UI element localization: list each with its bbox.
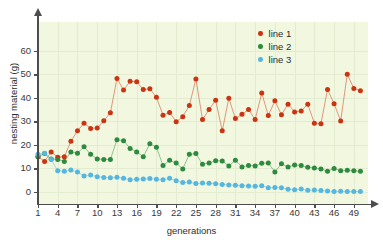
data-point <box>141 87 146 92</box>
series-1 <box>36 72 363 164</box>
y-tick-label: 0 <box>5 187 31 197</box>
data-point <box>128 146 133 151</box>
x-tick-label: 49 <box>343 207 365 218</box>
legend-marker-icon <box>258 57 263 62</box>
data-point <box>351 86 356 91</box>
data-point <box>82 173 87 178</box>
data-point <box>286 187 291 192</box>
data-point <box>213 158 218 163</box>
data-point <box>358 169 363 174</box>
data-point <box>128 177 133 182</box>
x-tick-label: 16 <box>126 207 148 218</box>
x-tick-mark <box>295 205 296 208</box>
data-point <box>114 76 119 81</box>
data-point <box>200 117 205 122</box>
data-point <box>187 103 192 108</box>
data-point <box>134 149 139 154</box>
data-point <box>68 168 73 173</box>
data-point <box>239 165 244 170</box>
data-point <box>154 177 159 182</box>
legend-item-2[interactable]: line 2 <box>258 40 291 53</box>
data-point <box>253 184 258 189</box>
data-point <box>266 161 271 166</box>
legend-item-1[interactable]: line 1 <box>258 27 291 40</box>
series-2 <box>36 137 363 174</box>
data-point <box>325 169 330 174</box>
data-point <box>345 72 350 77</box>
data-point <box>121 88 126 93</box>
data-point <box>312 121 317 126</box>
data-point <box>220 128 225 133</box>
x-tick-label: 1 <box>27 207 49 218</box>
data-point <box>226 182 231 187</box>
data-point <box>141 177 146 182</box>
y-tick-mark <box>34 51 38 52</box>
x-tick-label: 46 <box>323 207 345 218</box>
x-tick-mark <box>97 205 98 208</box>
data-point <box>108 157 113 162</box>
data-point <box>299 163 304 168</box>
data-point <box>325 87 330 92</box>
legend-label: line 2 <box>269 41 292 52</box>
x-tick-label: 22 <box>165 207 187 218</box>
data-point <box>49 157 54 162</box>
legend-item-3[interactable]: line 3 <box>258 53 291 66</box>
data-point <box>55 157 60 162</box>
data-point <box>101 157 106 162</box>
data-point <box>82 121 87 126</box>
x-tick-label: 28 <box>205 207 227 218</box>
data-point <box>332 101 337 106</box>
data-point <box>101 175 106 180</box>
data-point <box>207 181 212 186</box>
data-point <box>180 114 185 119</box>
data-point <box>266 185 271 190</box>
data-point <box>147 176 152 181</box>
data-point <box>82 144 87 149</box>
data-point <box>213 181 218 186</box>
data-point <box>345 189 350 194</box>
x-tick-mark <box>235 205 236 208</box>
data-point <box>220 182 225 187</box>
data-point <box>292 109 297 114</box>
data-point <box>42 159 47 164</box>
data-point <box>134 79 139 84</box>
data-point <box>174 178 179 183</box>
data-point <box>305 188 310 193</box>
data-point <box>358 189 363 194</box>
data-point <box>55 168 60 173</box>
y-axis-title: nesting material (g) <box>8 39 19 169</box>
data-point <box>187 152 192 157</box>
data-point <box>332 189 337 194</box>
data-point <box>279 185 284 190</box>
data-point <box>292 187 297 192</box>
data-point <box>338 189 343 194</box>
data-point <box>207 107 212 112</box>
data-point <box>174 161 179 166</box>
data-point <box>134 177 139 182</box>
data-point <box>121 176 126 181</box>
data-point <box>213 98 218 103</box>
data-point <box>161 113 166 118</box>
y-tick-mark <box>34 121 38 122</box>
data-point <box>167 176 172 181</box>
x-axis-line <box>37 204 375 206</box>
data-point <box>246 183 251 188</box>
data-point <box>318 166 323 171</box>
data-point <box>147 141 152 146</box>
data-point <box>108 175 113 180</box>
series-layer <box>38 22 368 204</box>
data-point <box>95 174 100 179</box>
data-point <box>318 188 323 193</box>
data-point <box>147 86 152 91</box>
x-tick-mark <box>176 205 177 208</box>
data-point <box>114 137 119 142</box>
x-tick-label: 40 <box>284 207 306 218</box>
data-point <box>200 181 205 186</box>
data-point <box>233 158 238 163</box>
data-point <box>95 157 100 162</box>
y-tick-mark <box>34 74 38 75</box>
x-tick-label: 34 <box>244 207 266 218</box>
data-point <box>286 102 291 107</box>
data-point <box>167 158 172 163</box>
data-point <box>200 162 205 167</box>
